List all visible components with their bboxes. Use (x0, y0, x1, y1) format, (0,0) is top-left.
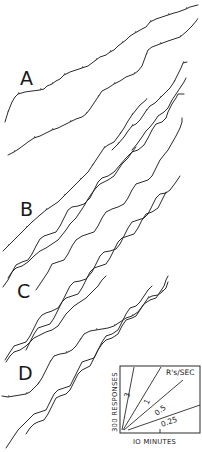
rate-label-3: 3 (122, 391, 132, 398)
y-axis-label: 300 RESPONSES (111, 372, 119, 432)
event-mark (80, 338, 81, 340)
record-C1 (3, 94, 184, 287)
event-mark (38, 382, 39, 384)
event-mark (197, 18, 198, 20)
panel-label-a: A (20, 67, 33, 89)
event-mark (120, 132, 121, 134)
rate-key: 3 1 0.5 0.25 R's/SEC 300 RESPONSES IO MI… (111, 366, 200, 446)
event-mark (98, 95, 99, 97)
event-mark (50, 360, 51, 362)
event-mark (174, 80, 175, 82)
record-B1 (3, 100, 146, 251)
panel-label-d: D (18, 362, 33, 384)
record-C4 (26, 192, 166, 350)
rate-label-0.25: 0.25 (160, 415, 179, 429)
event-mark (92, 164, 93, 166)
record-A4 (132, 78, 186, 150)
panel-label-b: B (20, 198, 33, 220)
panel-labels: ABCD (17, 67, 33, 384)
x-axis-label: IO MINUTES (133, 438, 176, 446)
record-A2 (8, 20, 197, 155)
rate-label-0.5: 0.5 (153, 403, 168, 418)
event-mark (146, 98, 147, 100)
rate-label-1: 1 (142, 397, 152, 406)
cumulative-records-figure: ABCD 3 1 0.5 0.25 R's/SEC 300 RESPONSES … (0, 0, 202, 452)
panel-label-c: C (17, 280, 30, 302)
record-A1 (5, 5, 198, 122)
rate-unit-label: R's/SEC (166, 368, 194, 377)
